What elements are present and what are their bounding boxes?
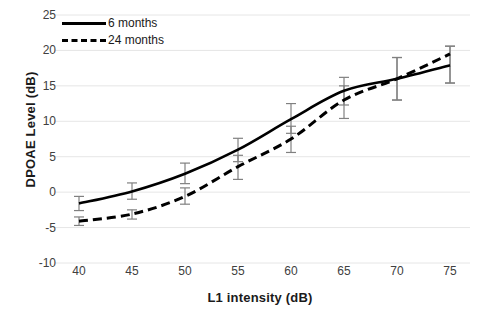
dpoae-input-output-chart: 2520151050-5-10 4045505560657075 DPOAE L…: [0, 0, 478, 319]
legend-item-24-months: 24 months: [62, 31, 164, 48]
legend-label-6-months: 6 months: [108, 16, 157, 30]
legend-label-24-months: 24 months: [108, 33, 164, 47]
x-tick-label: 40: [59, 264, 99, 278]
x-tick-label: 50: [165, 264, 205, 278]
x-tick-label: 55: [218, 264, 258, 278]
series-line-24-months: [79, 54, 450, 221]
y-tick-label: 25: [20, 8, 56, 22]
y-tick-label: -10: [20, 256, 56, 270]
legend-line-solid-icon: [62, 17, 106, 29]
x-tick-label: 65: [324, 264, 364, 278]
legend-item-6-months: 6 months: [62, 14, 164, 31]
x-tick-label: 75: [430, 264, 470, 278]
chart-legend: 6 months 24 months: [62, 14, 164, 48]
x-tick-label: 70: [377, 264, 417, 278]
x-tick-label: 45: [112, 264, 152, 278]
y-axis-title: DPOAE Level (dB): [23, 30, 38, 230]
legend-line-dashed-icon: [62, 34, 106, 46]
x-axis-title: L1 intensity (dB): [60, 290, 460, 305]
x-tick-label: 60: [271, 264, 311, 278]
error-bar: [445, 46, 455, 83]
